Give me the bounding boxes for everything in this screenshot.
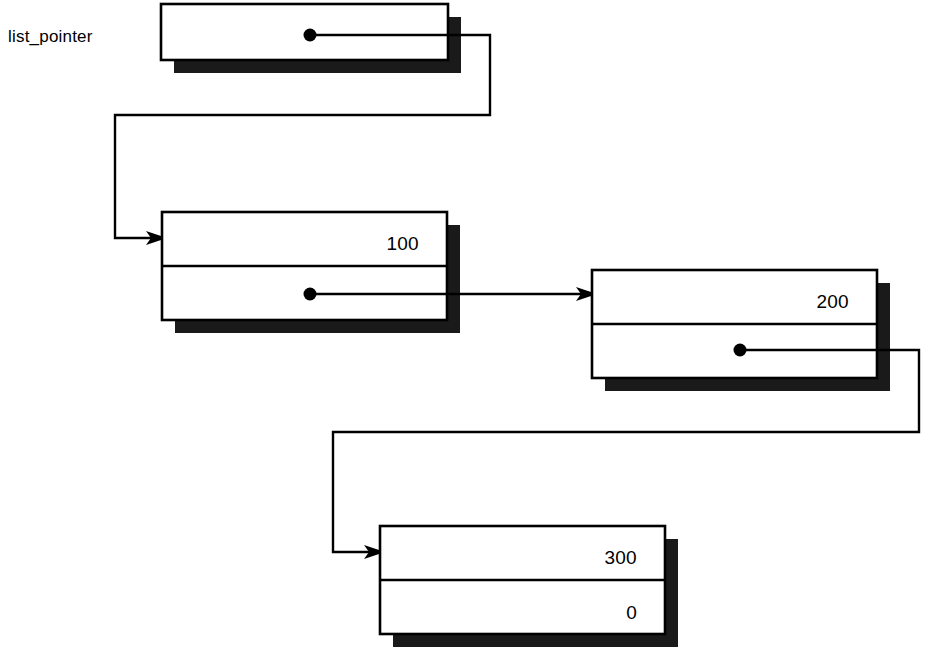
diagram-canvas: list_pointer 100 [0, 0, 930, 659]
node-300: 300 0 [380, 526, 678, 647]
node-200: 200 [592, 270, 890, 391]
node-100: 100 [162, 212, 460, 333]
node-300-data-value: 300 [604, 547, 637, 568]
variable-label-list-pointer: list_pointer [8, 27, 93, 46]
node-100-data-value: 100 [386, 233, 419, 254]
node-200-data-value: 200 [816, 291, 849, 312]
node-pointer-var [161, 4, 461, 73]
linked-list-diagram: list_pointer 100 [0, 0, 930, 659]
node-300-pointer-value: 0 [626, 602, 637, 623]
